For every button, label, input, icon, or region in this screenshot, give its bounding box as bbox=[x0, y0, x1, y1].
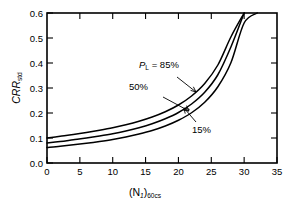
plot-frame bbox=[47, 13, 277, 163]
x-tick-label: 30 bbox=[239, 166, 250, 177]
x-tick-label: 15 bbox=[140, 166, 151, 177]
y-tick-label: 0.2 bbox=[30, 108, 43, 119]
x-tick-label: 5 bbox=[77, 166, 82, 177]
curve-label-85: PL = 85% bbox=[139, 59, 179, 71]
curve-pl-50 bbox=[47, 13, 244, 143]
x-title-sub2: 60cs bbox=[147, 192, 162, 199]
curve-pl-15 bbox=[47, 13, 257, 148]
x-axis-ticks-top bbox=[80, 13, 244, 19]
y-tick-label: 0.1 bbox=[30, 133, 43, 144]
y-axis-title: CRRstd bbox=[10, 72, 23, 104]
y-tick-label: 0.3 bbox=[30, 83, 43, 94]
x-tick-label: 0 bbox=[44, 166, 49, 177]
annotation-leaders bbox=[163, 77, 196, 122]
x-axis-title: (N1)60cs bbox=[129, 186, 162, 199]
y-tick-label: 0.6 bbox=[30, 8, 43, 19]
x-tick-label: 35 bbox=[272, 166, 283, 177]
y-tick-label: 0.5 bbox=[30, 33, 43, 44]
x-axis-tick-labels: 0 5 10 15 20 25 30 35 bbox=[44, 166, 282, 177]
curve-label-50: 50% bbox=[129, 81, 149, 92]
chart-figure: 0 5 10 15 20 25 30 35 0.0 0.1 0.2 0.3 0.… bbox=[0, 0, 295, 204]
y-axis-tick-labels: 0.0 0.1 0.2 0.3 0.4 0.5 0.6 bbox=[30, 8, 43, 169]
curve-pl-85 bbox=[47, 13, 244, 138]
curve-label-15: 15% bbox=[192, 124, 212, 135]
x-tick-label: 20 bbox=[173, 166, 184, 177]
y-tick-label: 0.4 bbox=[30, 58, 43, 69]
liquefaction-crr-chart: 0 5 10 15 20 25 30 35 0.0 0.1 0.2 0.3 0.… bbox=[0, 0, 295, 204]
x-axis-ticks-bottom bbox=[47, 157, 277, 163]
y-title-sub: std bbox=[16, 72, 23, 81]
leader-line-85 bbox=[177, 77, 196, 92]
y-title-main: CRR bbox=[10, 81, 22, 104]
x-title-open: (N bbox=[129, 186, 140, 198]
x-tick-label: 10 bbox=[107, 166, 118, 177]
y-tick-label: 0.0 bbox=[30, 158, 43, 169]
x-tick-label: 25 bbox=[206, 166, 217, 177]
data-curves bbox=[47, 13, 257, 148]
y-axis-ticks-left bbox=[47, 13, 53, 163]
y-axis-ticks-right bbox=[271, 38, 277, 138]
pl-value: = 85% bbox=[149, 59, 179, 70]
